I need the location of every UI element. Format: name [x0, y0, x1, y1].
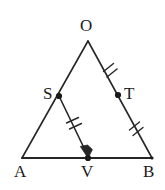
segment-OA [22, 41, 88, 158]
point-dot-S [56, 93, 62, 99]
segment-OB [88, 41, 152, 158]
point-dot-B [150, 156, 153, 159]
vertex-label-T: T [124, 85, 134, 102]
vertex-label-O: O [80, 17, 92, 34]
point-dot-T [115, 92, 121, 98]
geometry-figure: O S T A V B [0, 0, 165, 190]
vertex-label-V: V [81, 163, 93, 180]
ticks-SV [67, 118, 82, 130]
ticks-OT [104, 64, 118, 78]
vertex-label-A: A [14, 163, 26, 180]
vertex-label-B: B [143, 163, 154, 180]
vertex-label-S: S [43, 85, 52, 102]
point-dot-V [85, 155, 91, 161]
